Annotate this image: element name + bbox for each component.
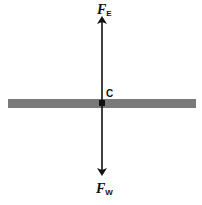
force-diagram: C FE FW — [0, 0, 202, 205]
center-label: C — [106, 88, 113, 99]
force-label-up: FE — [96, 2, 112, 18]
force-label-down: FW — [95, 181, 113, 197]
center-point — [99, 100, 105, 106]
